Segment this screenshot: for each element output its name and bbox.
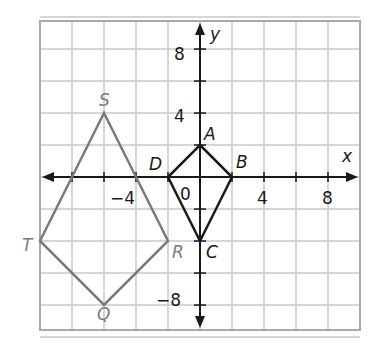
y-tick-label-4: 4	[174, 106, 185, 126]
y-tick-label-neg8: −8	[156, 290, 181, 310]
y-axis-label: y	[209, 24, 221, 44]
vertex-label-r: R	[172, 242, 184, 262]
x-axis-label: x	[341, 146, 353, 166]
vertex-label-q: Q	[97, 304, 110, 324]
vertex-label-t: T	[22, 235, 34, 255]
x-tick-label-4: 4	[257, 188, 268, 208]
x-axis-right-arrow-icon	[346, 172, 358, 182]
x-tick-label-neg4: −4	[110, 188, 135, 208]
vertex-label-b: B	[236, 152, 248, 172]
vertex-label-s: S	[99, 90, 110, 110]
coordinate-plane: y x −4 4 8 8 4 −8 0 A B C D S R Q T	[0, 0, 372, 351]
x-tick-label-8: 8	[322, 188, 333, 208]
vertex-label-c: C	[206, 242, 218, 262]
vertex-label-a: A	[203, 124, 216, 144]
origin-label: 0	[180, 184, 191, 204]
y-axis-down-arrow-icon	[195, 316, 205, 328]
vertex-label-d: D	[149, 154, 162, 174]
axes	[42, 23, 358, 328]
y-tick-label-8: 8	[174, 44, 185, 64]
x-axis-left-arrow-icon	[42, 172, 54, 182]
y-axis-up-arrow-icon	[195, 23, 205, 35]
